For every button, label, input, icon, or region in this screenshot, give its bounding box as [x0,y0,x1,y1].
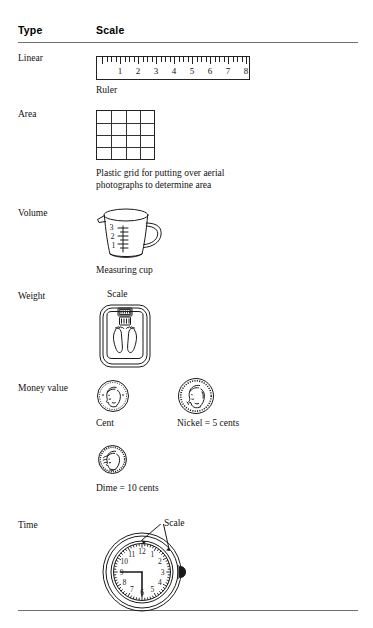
ruler-number: 4 [172,66,177,76]
ruler-tick [147,57,148,62]
clock-tick [136,544,137,547]
clock-tick [167,577,170,578]
clock-tick [153,546,154,548]
caption-grid-line2: photographs to determine area [96,180,311,192]
clock-numeral: 11 [128,550,135,559]
row-label-money-value: Money value [18,383,68,393]
ruler-numbers: 12345678 [97,66,251,80]
clock-numeral: 2 [158,557,162,566]
ruler-tick [143,57,144,62]
clock-numeral: 12 [138,547,146,556]
ruler-number: 5 [190,66,195,76]
ruler-number: 1 [118,66,123,76]
header-divider-rule [18,42,358,43]
ruler-tick [228,57,229,64]
row-label-volume: Volume [18,208,47,218]
clock-numeral: 9 [120,568,124,577]
ruler-tick [107,57,108,62]
clock-tick [119,587,121,589]
ruler-number: 6 [208,66,213,76]
clock-numeral: 8 [122,578,126,587]
clock-tick [115,580,117,581]
ruler-tick [210,57,211,64]
clock-tick [116,583,118,584]
ruler-tick [125,57,126,62]
clock-tick [157,549,159,551]
ruler-tick [192,57,193,64]
row-label-area: Area [18,109,36,119]
caption-ruler: Ruler [96,85,117,97]
ruler-tick [129,57,130,62]
clock-tick [123,591,125,593]
cent-coin-figure [96,379,130,413]
ruler-tick [156,57,157,64]
clock-numeral: 7 [130,585,134,594]
ruler-tick [120,57,121,64]
clock-tick [159,591,161,593]
clock-tick [123,551,125,553]
clock-tick [163,555,165,557]
caption-cent: Cent [96,418,114,430]
row-label-weight: Weight [18,291,45,301]
ruler-tick [179,57,180,62]
ruler-tick [161,57,162,62]
clock-tick [166,560,168,561]
clock-numeral: 10 [121,557,129,566]
ruler-tick [174,57,175,64]
caption-grid: Plastic grid for putting over aerial pho… [96,168,311,191]
column-header-scale: Scale [96,24,124,36]
cup-mark-2: 2 [111,232,115,241]
ruler-tick [138,57,139,64]
clock-numeral: 5 [150,585,154,594]
clock-tick [154,547,156,551]
ruler-tick [206,57,207,62]
ruler-tick [219,57,220,62]
ruler-tick [242,57,243,62]
clock-numeral: 3 [161,568,165,577]
ruler-number: 8 [244,66,249,76]
clock-tick [125,549,127,551]
ruler-tick [201,57,202,62]
ruler-tick [165,57,166,62]
ruler-number: 7 [226,66,231,76]
ruler-number: 3 [154,66,159,76]
ruler-figure: 12345678 [96,56,250,80]
measuring-cup-figure: 3 2 1 [96,206,166,262]
caption-nickel: Nickel = 5 cents [177,418,239,430]
cup-mark-1: 1 [112,241,116,250]
ruler-ticks [102,57,246,65]
clock-tick [125,593,127,595]
dime-coin-figure [97,444,128,475]
grid-figure [96,110,155,160]
nickel-coin-figure [177,377,215,415]
clock-tick [147,544,148,547]
ruler-tick [224,57,225,62]
clock-tick [114,577,117,578]
clock-tick [121,589,123,591]
ruler-tick [152,57,153,62]
clock-tick [167,580,169,581]
ruler-tick [134,57,135,62]
clock-tick [117,584,121,586]
row-label-linear: Linear [18,53,43,63]
clock-tick [130,596,131,598]
clock-tick [130,546,131,548]
clock-tick [163,584,167,586]
ruler-tick [233,57,234,62]
clock-tick [157,593,159,595]
clock-numeral: 4 [158,578,162,587]
column-header-type: Type [18,24,43,36]
ruler-tick [183,57,184,62]
ruler-tick [111,57,112,62]
clock-figure: 121234567891011 [94,524,234,612]
clock-tick [133,545,134,547]
grid-line-horizontal [97,147,154,148]
caption-measuring-cup: Measuring cup [96,265,153,277]
cup-mark-3: 3 [110,223,114,232]
ruler-tick [237,57,238,62]
clock-tick [154,593,156,597]
ruler-tick [170,57,171,62]
clock-tick [163,587,165,589]
clock-tick [115,563,117,564]
grid-line-horizontal [97,135,154,136]
